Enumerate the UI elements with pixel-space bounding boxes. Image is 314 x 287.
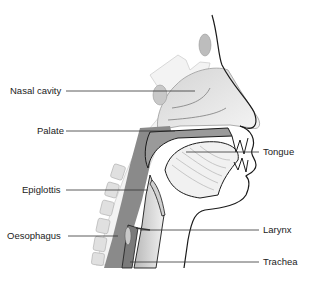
label-nasal-cavity: Nasal cavity	[10, 85, 61, 96]
sinus	[153, 85, 167, 105]
label-palate: Palate	[37, 125, 64, 136]
frontal-sinus	[199, 34, 211, 56]
tongue-shape	[165, 142, 238, 198]
label-larynx: Larynx	[263, 224, 292, 235]
label-tongue: Tongue	[263, 146, 294, 157]
anatomy-diagram	[0, 0, 314, 287]
oesophagus-lumen	[125, 227, 131, 245]
label-trachea: Trachea	[263, 256, 298, 267]
label-epiglottis: Epiglottis	[22, 184, 61, 195]
label-oesophagus: Oesophagus	[7, 230, 61, 241]
